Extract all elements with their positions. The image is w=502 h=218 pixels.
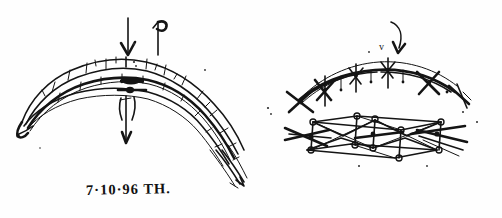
truss-top-plane (313, 116, 441, 130)
ink-speck (133, 61, 135, 63)
sketch-sheet: 7·10·96 TH. v (0, 0, 502, 218)
space-truss-lattice (285, 113, 467, 161)
reaction-arrow-up-icon (153, 21, 167, 55)
ink-speck (267, 107, 269, 109)
support-arrow-down-icon (120, 96, 135, 143)
ink-speck (476, 121, 478, 123)
arch-right-tail-fan (210, 145, 247, 188)
truss-center-bar (355, 132, 403, 138)
ink-speck (204, 69, 206, 71)
ink-speck (270, 113, 272, 115)
crown-joint-blot (118, 78, 146, 94)
ink-speck (39, 147, 41, 149)
load-arrow-down-icon (121, 18, 135, 55)
panel-arch-plan-and-truss-sketch: v (251, 0, 502, 218)
ink-speck (426, 165, 428, 167)
ink-speck (368, 51, 370, 53)
panel-arch-section-sketch: 7·10·96 TH. (0, 0, 251, 218)
load-arrow-curved-down-icon (391, 22, 405, 53)
ink-speck (462, 111, 464, 113)
ink-speck (135, 65, 137, 67)
caption-left-date-initials: 7·10·96 TH. (86, 180, 171, 199)
right-sketch-drawing: v (251, 0, 502, 218)
load-label-v: v (379, 41, 384, 52)
arch-extrados-ticks (42, 57, 239, 160)
ink-speck (358, 165, 360, 167)
arch-intrados-inner-curve (27, 95, 223, 166)
